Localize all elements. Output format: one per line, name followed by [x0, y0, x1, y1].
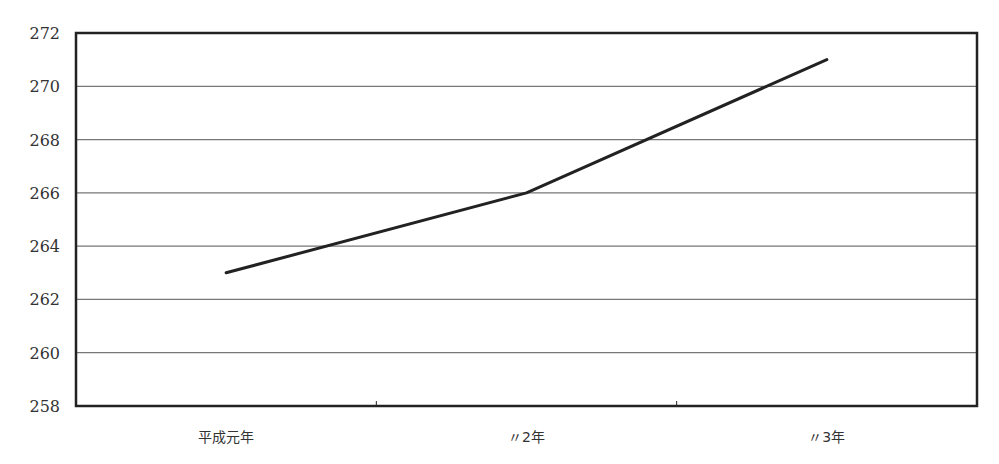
y-axis-ticks: 258260262264266268270272: [29, 24, 60, 416]
x-tick-label: 〃3年: [808, 429, 845, 445]
y-tick-label: 262: [29, 290, 60, 309]
line-chart: 258260262264266268270272 平成元年〃2年〃3年: [0, 0, 999, 464]
y-tick-label: 264: [29, 237, 60, 256]
y-tick-label: 260: [29, 344, 60, 363]
y-tick-label: 268: [29, 131, 60, 150]
y-tick-label: 270: [29, 77, 60, 96]
y-tick-label: 258: [29, 397, 60, 416]
data-line: [226, 60, 827, 273]
plot-frame: [76, 33, 977, 406]
x-axis-ticks: 平成元年〃2年〃3年: [198, 401, 845, 445]
x-tick-label: 平成元年: [198, 429, 254, 445]
x-tick-label: 〃2年: [508, 429, 545, 445]
gridlines: [76, 86, 977, 352]
y-tick-label: 266: [29, 184, 60, 203]
y-tick-label: 272: [29, 24, 60, 43]
